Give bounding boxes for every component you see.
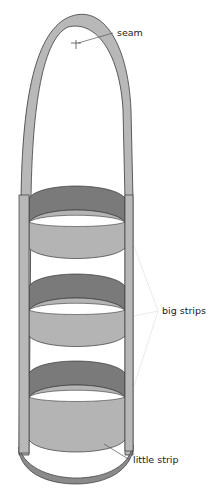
little-strip-label: little strip	[133, 454, 178, 465]
basket-diagram	[0, 0, 214, 491]
seam-label: seam	[117, 27, 143, 38]
big-strip-1	[29, 186, 125, 259]
big-strips-leaders	[134, 246, 158, 386]
big-strips-label: big strips	[162, 305, 206, 316]
big-strip-3	[29, 361, 125, 452]
big-strip-2	[29, 274, 125, 347]
